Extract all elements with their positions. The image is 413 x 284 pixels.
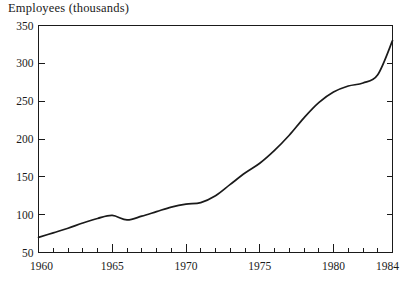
y-tick-label: 250 [16, 95, 34, 107]
x-tick-label: 1980 [322, 260, 345, 272]
x-tick-label: 1965 [101, 260, 124, 272]
chart-tick-marks [39, 26, 393, 253]
y-tick-label: 50 [22, 247, 34, 259]
y-tick-label: 300 [16, 57, 34, 69]
chart-plot-area: 50100150200250300350 1960196519701975198… [0, 0, 413, 284]
x-axis-tick-labels: 196019651970197519801984 [30, 260, 399, 272]
y-tick-label: 350 [16, 20, 34, 32]
x-tick-label: 1975 [248, 260, 271, 272]
chart-axes [39, 26, 393, 253]
chart-series-line [39, 41, 393, 238]
x-tick-label: 1960 [30, 260, 53, 272]
x-tick-label: 1970 [175, 260, 198, 272]
chart-container: Employees (thousands) 501001502002503003… [0, 0, 413, 284]
y-tick-label: 150 [16, 171, 34, 183]
x-tick-label: 1984 [376, 260, 399, 272]
plot-frame [39, 26, 393, 253]
series-employees [39, 41, 393, 238]
y-tick-label: 200 [16, 133, 34, 145]
y-tick-label: 100 [16, 209, 34, 221]
y-axis-tick-labels: 50100150200250300350 [16, 20, 34, 259]
